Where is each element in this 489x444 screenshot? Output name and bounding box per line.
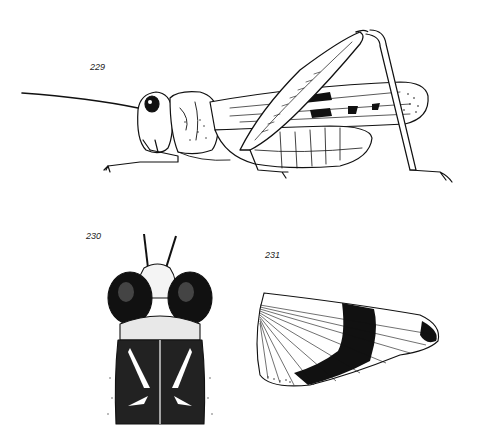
figure-label-231: 231 <box>265 250 280 260</box>
figure-label-230: 230 <box>86 231 101 241</box>
antenna <box>22 93 138 108</box>
figure-230-head-dorsal <box>100 228 230 428</box>
figure-229-grasshopper <box>0 0 489 200</box>
figure-231-hind-wing <box>250 285 450 405</box>
